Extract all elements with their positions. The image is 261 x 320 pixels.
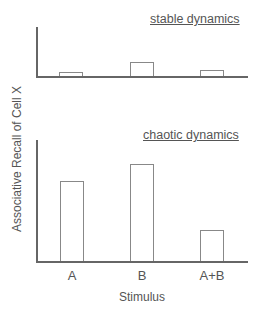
bar-chaotic-a bbox=[60, 181, 84, 261]
bar-stable-a bbox=[59, 72, 83, 76]
bar-chaotic-b bbox=[130, 164, 154, 261]
y-axis-label: Associative Recall of Cell X bbox=[10, 74, 24, 244]
panel-title-stable: stable dynamics bbox=[150, 12, 240, 26]
tick-label-ab: A+B bbox=[192, 268, 232, 283]
panel-title-chaotic: chaotic dynamics bbox=[143, 128, 239, 142]
y-axis-bottom bbox=[36, 140, 38, 262]
x-axis-top bbox=[36, 76, 248, 78]
bar-stable-ab bbox=[200, 70, 224, 76]
x-axis-label: Stimulus bbox=[92, 290, 192, 304]
tick-label-a: A bbox=[52, 268, 92, 283]
y-axis-top bbox=[36, 27, 38, 77]
tick-label-b: B bbox=[122, 268, 162, 283]
bar-chaotic-ab bbox=[200, 230, 224, 261]
x-axis-bottom bbox=[36, 261, 248, 263]
bar-stable-b bbox=[130, 62, 154, 76]
